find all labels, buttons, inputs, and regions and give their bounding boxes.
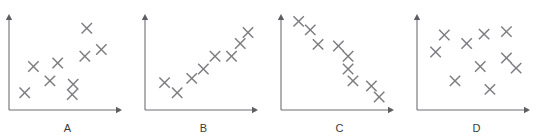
- data-point-marker: [374, 92, 384, 102]
- data-point-marker: [210, 51, 220, 61]
- data-markers-b: [159, 27, 253, 98]
- data-markers-a: [20, 23, 107, 100]
- data-markers-d: [430, 26, 521, 94]
- scatter-plot-c: [272, 0, 407, 120]
- data-point-marker: [305, 25, 315, 35]
- data-point-marker: [28, 61, 38, 71]
- data-point-marker: [52, 58, 62, 68]
- data-point-marker: [235, 38, 245, 48]
- axes-c: [278, 14, 394, 113]
- data-point-marker: [475, 61, 485, 71]
- y-axis-arrowhead: [278, 14, 284, 20]
- panel-label-b: B: [136, 122, 271, 135]
- data-point-marker: [82, 23, 92, 33]
- panel-label-a: A: [0, 122, 135, 135]
- data-point-marker: [293, 16, 303, 26]
- data-markers-c: [293, 16, 384, 102]
- data-point-marker: [479, 29, 489, 39]
- y-axis-arrowhead: [142, 14, 148, 20]
- data-point-marker: [485, 84, 495, 94]
- axes-a: [6, 14, 122, 113]
- data-point-marker: [68, 79, 78, 89]
- data-point-marker: [243, 27, 253, 37]
- data-point-marker: [348, 76, 358, 86]
- data-point-marker: [333, 41, 343, 51]
- x-axis-arrowhead: [252, 107, 258, 113]
- panel-label-c: C: [272, 122, 407, 135]
- axes-b: [142, 14, 258, 113]
- scatter-panel-b: B: [136, 0, 271, 137]
- scatter-panel-c: C: [272, 0, 407, 137]
- data-point-marker: [366, 81, 376, 91]
- data-point-marker: [45, 76, 55, 86]
- data-point-marker: [430, 47, 440, 57]
- x-axis-arrowhead: [388, 107, 394, 113]
- data-point-marker: [439, 30, 449, 40]
- y-axis-arrowhead: [414, 14, 420, 20]
- scatter-panel-d: D: [408, 0, 545, 137]
- scatter-plot-a: [0, 0, 135, 120]
- data-point-marker: [450, 76, 460, 86]
- scatter-panel-a: A: [0, 0, 135, 137]
- data-point-marker: [80, 51, 90, 61]
- scatter-plot-d: [408, 0, 545, 120]
- data-point-marker: [172, 88, 182, 98]
- x-axis-arrowhead: [116, 107, 122, 113]
- data-point-marker: [159, 77, 169, 87]
- data-point-marker: [187, 73, 197, 83]
- data-point-marker: [198, 64, 208, 74]
- data-point-marker: [461, 38, 471, 48]
- data-point-marker: [343, 51, 353, 61]
- data-point-marker: [511, 63, 521, 73]
- data-point-marker: [96, 44, 106, 54]
- x-axis-arrowhead: [524, 107, 530, 113]
- data-point-marker: [501, 53, 511, 63]
- scatter-plot-b: [136, 0, 271, 120]
- data-point-marker: [67, 89, 77, 99]
- data-point-marker: [313, 39, 323, 49]
- panel-label-d: D: [408, 122, 545, 135]
- y-axis-arrowhead: [6, 14, 12, 20]
- data-point-marker: [20, 88, 30, 98]
- data-point-marker: [226, 51, 236, 61]
- data-point-marker: [501, 26, 511, 36]
- data-point-marker: [343, 64, 353, 74]
- scatter-panel-figure: A B C: [0, 0, 545, 137]
